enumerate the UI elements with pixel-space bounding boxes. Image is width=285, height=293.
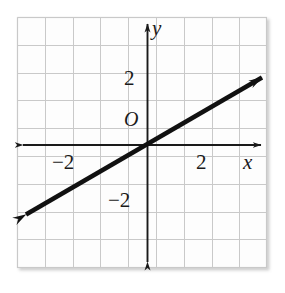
x-tick-label-neg2: −2 xyxy=(52,152,74,173)
x-tick-label-2: 2 xyxy=(196,152,207,173)
grid-background xyxy=(18,18,267,268)
coordinate-plane-svg xyxy=(0,0,285,293)
y-axis-label: y xyxy=(152,18,161,39)
y-tick-label-2: 2 xyxy=(124,68,135,89)
origin-label: O xyxy=(124,109,138,129)
y-tick-label-neg2: −2 xyxy=(108,190,130,211)
x-axis-label: x xyxy=(243,152,252,173)
graph-figure: y x O 2 −2 2 −2 xyxy=(0,0,285,293)
grid-panel xyxy=(18,18,267,268)
